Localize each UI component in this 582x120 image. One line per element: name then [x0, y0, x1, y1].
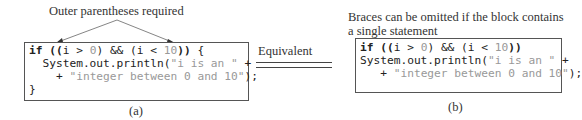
equals-line-top — [256, 62, 332, 63]
code-a-line3: + "integer between 0 and 10"); — [29, 70, 258, 83]
braces-note-line1: Braces can be omitted if the block conta… — [348, 10, 564, 24]
caption-a: (a) — [129, 104, 143, 119]
outer-open-paren: (( — [42, 44, 62, 57]
if-keyword: if — [29, 44, 42, 57]
if-keyword: if — [360, 41, 373, 54]
code-a-line4: } — [29, 83, 36, 96]
outer-parentheses-note: Outer parentheses required — [49, 4, 184, 18]
caption-b: (b) — [448, 100, 463, 115]
outer-close-paren: )) — [177, 44, 190, 57]
code-a-line2: System.out.println("i is an " + — [29, 57, 251, 70]
code-a-line1: if ((i > 0) && (i < 10)) { — [29, 44, 204, 57]
code-b-line3: + "integer between 0 and 10"); — [360, 67, 582, 80]
code-b-line2: System.out.println("i is an " + — [360, 54, 569, 67]
equivalent-label: Equivalent — [258, 44, 312, 59]
code-b-line1: if ((i > 0) && (i < 10)) — [360, 41, 522, 54]
braces-note-line2: a single statement — [348, 24, 438, 38]
equals-line-bottom — [256, 67, 332, 68]
